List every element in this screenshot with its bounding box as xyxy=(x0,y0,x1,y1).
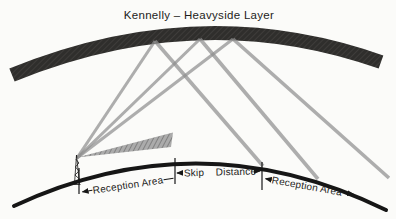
reception-right-leader xyxy=(266,179,272,180)
reception-area-left-label: Reception Area xyxy=(92,174,164,195)
diagram-canvas: Kennelly – Heavyside Layer xyxy=(0,0,396,219)
reception-left-leader xyxy=(164,178,174,179)
skip-label: Skip xyxy=(184,167,205,179)
down-ray-1 xyxy=(155,41,263,166)
propagation-diagram: Kennelly – Heavyside Layer xyxy=(0,0,396,219)
skip-distance-group: Skip Distance xyxy=(177,165,260,178)
diagram-title: Kennelly – Heavyside Layer xyxy=(124,9,274,21)
up-ray-2 xyxy=(77,39,200,158)
reception-area-right-group: Reception Area xyxy=(265,173,355,199)
reception-left-arrow xyxy=(83,190,93,191)
sky-wave-rays xyxy=(77,39,389,179)
distance-label: Distance xyxy=(216,165,257,177)
